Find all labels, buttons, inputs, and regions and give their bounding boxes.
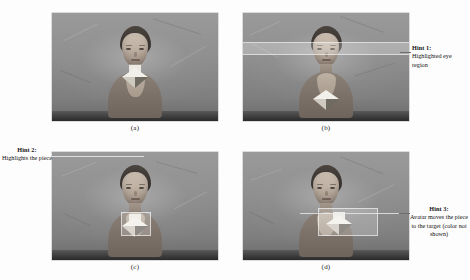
panel-caption-b: (b) bbox=[243, 124, 409, 132]
hint-1: Hint 1: Highlighted eye region bbox=[412, 44, 468, 69]
avatar-eyebrow-right bbox=[330, 184, 336, 186]
piece-facet-bottom-left bbox=[122, 77, 135, 88]
piece-facet-top bbox=[313, 90, 339, 99]
panel-a bbox=[52, 13, 218, 121]
wall-crease bbox=[60, 69, 91, 82]
avatar-nose bbox=[325, 191, 328, 196]
wall-crease bbox=[171, 46, 206, 67]
wall-crease bbox=[249, 211, 273, 223]
avatar-eye-left bbox=[317, 187, 322, 190]
hint-3: Hint 3: Avatar moves the piece to the ta… bbox=[410, 205, 468, 239]
piece-facet-top bbox=[122, 68, 148, 77]
avatar-mouth bbox=[131, 59, 140, 61]
avatar-mouth bbox=[131, 198, 140, 200]
hint-1-body: Highlighted eye region bbox=[412, 52, 468, 69]
hint-2-leader-line bbox=[52, 156, 144, 157]
hint-3-leader-line bbox=[399, 213, 410, 214]
piece-highlight bbox=[121, 212, 151, 236]
avatar-eyebrow-right bbox=[139, 45, 145, 47]
wall-crease bbox=[358, 184, 394, 202]
avatar-nose bbox=[134, 52, 137, 57]
wall-crease bbox=[249, 21, 280, 35]
geometric-piece bbox=[313, 87, 339, 113]
avatar-eyebrow-left bbox=[126, 45, 132, 47]
avatar-eye-right bbox=[139, 48, 144, 51]
hint-2: Hint 2: Highlights the piece bbox=[2, 146, 52, 163]
panel-c bbox=[52, 152, 218, 260]
hint-2-body: Highlights the piece bbox=[2, 154, 52, 162]
hint-1-title: Hint 1: bbox=[412, 44, 468, 52]
wall-crease bbox=[250, 168, 281, 180]
wall-crease bbox=[64, 24, 97, 41]
avatar-eye-right bbox=[139, 187, 144, 190]
eye-region-highlight bbox=[243, 42, 409, 55]
wall-crease bbox=[173, 191, 206, 209]
wall-crease bbox=[353, 63, 394, 77]
avatar-eye-left bbox=[126, 187, 131, 190]
piece-facet-bottom-right bbox=[135, 77, 148, 88]
wall-crease bbox=[61, 162, 95, 176]
avatar-mouth bbox=[322, 59, 331, 61]
panel-caption-c: (c) bbox=[52, 263, 218, 271]
wall-crease bbox=[63, 213, 91, 226]
avatar-eyebrow-left bbox=[317, 184, 323, 186]
wall-crease bbox=[341, 156, 384, 174]
panel-caption-d: (d) bbox=[243, 263, 409, 271]
hint-3-body: Avatar moves the piece to the target (co… bbox=[410, 213, 468, 238]
panel-caption-a: (a) bbox=[52, 124, 218, 132]
wall-crease bbox=[153, 18, 201, 34]
avatar-eyebrow-left bbox=[126, 184, 132, 186]
avatar-eye-right bbox=[330, 187, 335, 190]
hint-2-title: Hint 2: bbox=[2, 146, 52, 154]
wall-crease bbox=[341, 16, 385, 33]
avatar-eye-left bbox=[126, 48, 131, 51]
avatar-nose bbox=[134, 191, 137, 196]
piece-facet-bottom-right bbox=[326, 99, 339, 110]
wall-crease bbox=[156, 161, 198, 174]
figure-root: (a) (b) bbox=[0, 0, 470, 280]
hint-3-leader-line-inner bbox=[300, 213, 399, 214]
panel-b bbox=[243, 13, 409, 121]
geometric-piece bbox=[122, 65, 148, 91]
hint-3-title: Hint 3: bbox=[410, 205, 468, 213]
piece-facet-bottom-left bbox=[313, 99, 326, 110]
avatar-mouth bbox=[322, 198, 331, 200]
avatar-eyebrow-right bbox=[139, 184, 145, 186]
panel-d bbox=[243, 152, 409, 260]
hint-1-leader-line bbox=[400, 52, 411, 53]
